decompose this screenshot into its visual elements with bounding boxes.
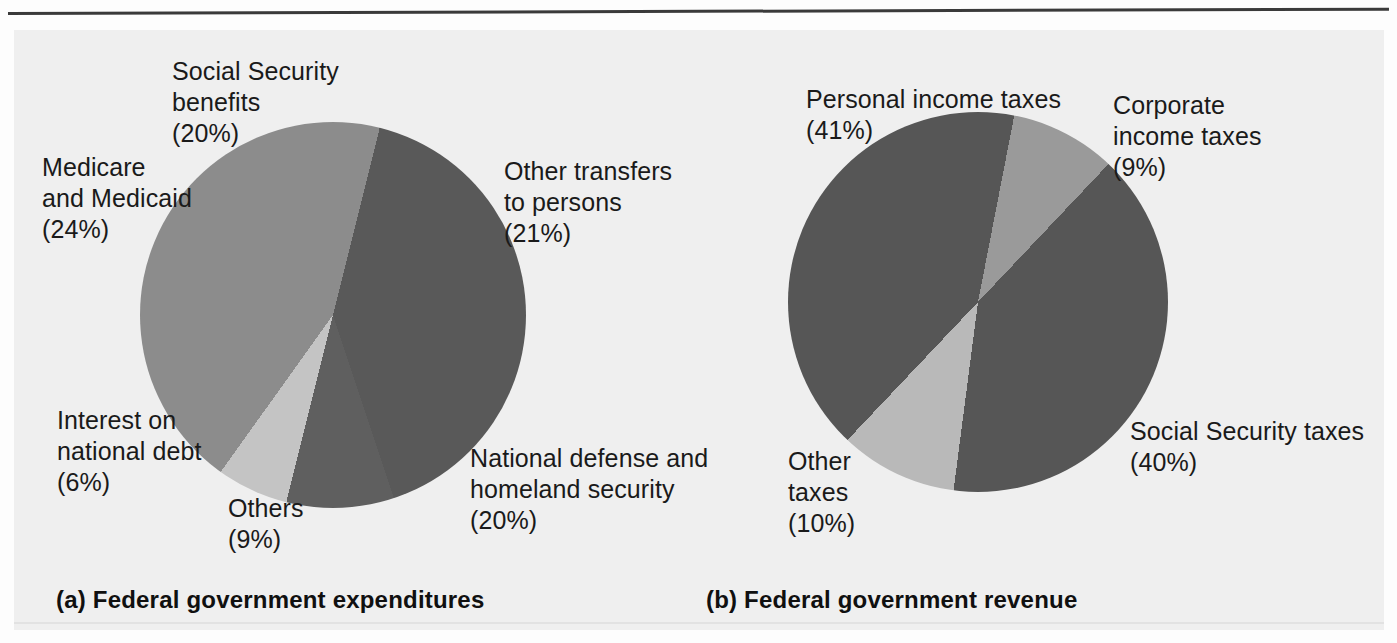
pie-label-personal-income-taxes: Personal income taxes (41%)	[806, 84, 1061, 146]
pie-label-social-security-taxes: Social Security taxes (40%)	[1130, 416, 1364, 478]
panel-caption-a: (a) Federal government expenditures	[56, 586, 484, 614]
top-horizontal-rule	[8, 8, 1389, 15]
pie-label-other-transfers-to-persons: Other transfers to persons (21%)	[504, 156, 672, 249]
pie-label-interest-on-national-debt: Interest on national debt (6%)	[57, 405, 201, 498]
pie-label-medicare-and-medicaid: Medicare and Medicaid (24%)	[42, 152, 192, 245]
pie-label-social-security-benefits: Social Security benefits (20%)	[172, 56, 339, 149]
pie-label-others: Others (9%)	[228, 493, 304, 555]
pie-label-other-taxes: Other taxes (10%)	[788, 446, 855, 539]
pie-chart-revenue	[788, 112, 1168, 492]
panel-caption-b: (b) Federal government revenue	[706, 586, 1077, 614]
pie-label-national-defense: National defense and homeland security (…	[470, 443, 708, 536]
figure-panel-bottom-edge	[14, 622, 1384, 624]
pie-label-corporate-income-taxes: Corporate income taxes (9%)	[1113, 90, 1262, 183]
figure-root: Social Security benefits (20%) Medicare …	[0, 0, 1397, 643]
